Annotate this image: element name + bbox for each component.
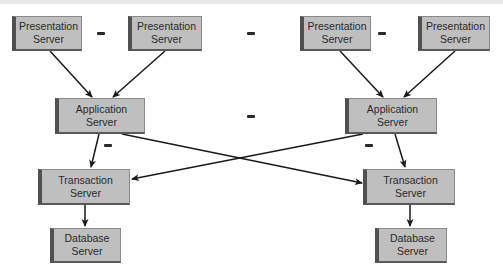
node-label-line2: Server — [72, 245, 103, 258]
edge-appL-transL — [91, 134, 99, 167]
application-server-node: Application Server — [55, 98, 145, 134]
node-label-line2: Server — [395, 187, 426, 200]
node-label-line2: Server — [86, 116, 117, 129]
presentation-server-node: Presentation Server — [300, 16, 371, 51]
node-label-line1: Application — [76, 103, 127, 116]
edge-pres1-appL — [50, 51, 92, 97]
ellipsis-icon — [97, 32, 105, 35]
node-label-line1: Database — [65, 232, 110, 245]
edge-appR-transR — [395, 134, 405, 167]
node-label-line2: Server — [397, 245, 428, 258]
node-label-line1: Application — [367, 103, 418, 116]
edge-pres3-appR — [340, 51, 383, 97]
node-label-line2: Server — [377, 116, 408, 129]
presentation-server-node: Presentation Server — [418, 16, 490, 51]
node-label-line1: Database — [390, 232, 435, 245]
application-server-node: Application Server — [345, 98, 437, 134]
architecture-diagram: Presentation Server Presentation Server … — [0, 0, 503, 276]
node-label-line2: Server — [33, 33, 64, 46]
edge-pres4-appR — [404, 51, 455, 97]
ellipsis-icon — [247, 115, 255, 118]
node-label-line2: Server — [322, 33, 353, 46]
ellipsis-icon — [104, 144, 112, 147]
database-server-node: Database Server — [375, 228, 447, 263]
node-label-line1: Presentation — [308, 20, 367, 33]
node-label-line1: Transaction — [383, 174, 437, 187]
node-label-line2: Server — [151, 33, 182, 46]
database-server-node: Database Server — [50, 228, 121, 263]
ellipsis-icon — [378, 32, 386, 35]
node-label-line1: Presentation — [426, 20, 485, 33]
node-label-line2: Server — [70, 187, 101, 200]
transaction-server-node: Transaction Server — [363, 169, 455, 205]
node-label-line1: Transaction — [58, 174, 112, 187]
node-label-line1: Presentation — [19, 20, 78, 33]
node-label-line1: Presentation — [137, 20, 196, 33]
ellipsis-icon — [365, 144, 373, 147]
edge-pres2-appL — [113, 51, 165, 97]
presentation-server-node: Presentation Server — [128, 16, 202, 51]
node-label-line2: Server — [440, 33, 471, 46]
ellipsis-icon — [247, 32, 255, 35]
edge-appR-transL — [132, 134, 363, 179]
transaction-server-node: Transaction Server — [38, 169, 130, 205]
presentation-server-node: Presentation Server — [12, 16, 82, 51]
